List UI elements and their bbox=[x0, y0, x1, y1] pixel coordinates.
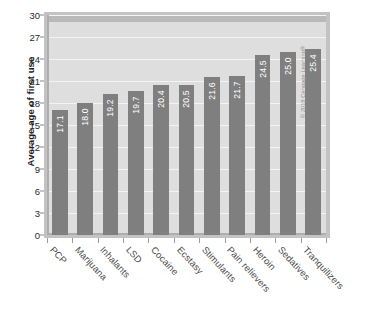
bar-value-label: 25.4 bbox=[308, 54, 318, 72]
y-axis-tick-label: 9 bbox=[18, 164, 40, 175]
x-axis-tick-mark bbox=[148, 238, 149, 243]
x-axis-tick-mark bbox=[326, 238, 327, 243]
x-axis-tick-mark bbox=[72, 238, 73, 243]
bar: 17.1 bbox=[52, 110, 68, 235]
y-axis-tick-label: 30 bbox=[18, 10, 40, 21]
bar-value-label: 20.5 bbox=[181, 90, 191, 108]
bar-series: 17.118.019.219.720.420.521.621.724.525.0… bbox=[47, 15, 326, 235]
x-axis-tick-mark bbox=[301, 238, 302, 243]
x-axis-tick-mark bbox=[174, 238, 175, 243]
bar-value-label: 25.0 bbox=[283, 57, 293, 75]
x-axis-tick-mark bbox=[199, 238, 200, 243]
x-axis-tick-mark bbox=[250, 238, 251, 243]
bar-value-label: 19.2 bbox=[105, 99, 115, 117]
y-axis-tick-label: 12 bbox=[18, 142, 40, 153]
x-axis-tick-mark bbox=[123, 238, 124, 243]
bar: 24.5 bbox=[255, 55, 271, 235]
y-axis-tick-label: 24 bbox=[18, 54, 40, 65]
bar: 21.7 bbox=[229, 76, 245, 235]
bar: 25.4 bbox=[305, 49, 321, 235]
bar-value-label: 17.1 bbox=[55, 115, 65, 133]
bar-value-label: 21.7 bbox=[232, 81, 242, 99]
plot-frame: 17.118.019.219.720.420.521.621.724.525.0… bbox=[44, 12, 330, 238]
y-axis-tick-label: 18 bbox=[18, 98, 40, 109]
bar: 20.5 bbox=[179, 85, 195, 235]
bar: 19.2 bbox=[103, 94, 119, 235]
y-axis-tick-label: 15 bbox=[18, 120, 40, 131]
x-axis-category-labels: PCPMarijuanaInhalantsLSDCocaineEcstasySt… bbox=[44, 244, 344, 310]
bar-value-label: 18.0 bbox=[80, 108, 90, 126]
y-axis-tick-labels: 036912151821242730 bbox=[18, 14, 40, 232]
bar-chart-figure: Average age of first use 036912151821242… bbox=[0, 0, 376, 314]
y-axis-tick-label: 21 bbox=[18, 76, 40, 87]
bar-value-label: 24.5 bbox=[258, 61, 268, 79]
x-axis-category-label: PCP bbox=[48, 244, 69, 266]
y-axis-tick-label: 0 bbox=[18, 230, 40, 241]
y-axis-tick-label: 6 bbox=[18, 186, 40, 197]
x-axis-tick-mark bbox=[98, 238, 99, 243]
bar: 20.4 bbox=[153, 85, 169, 235]
copyright-credit: © 2018 Cengage Learning® bbox=[300, 0, 306, 118]
y-axis-tick-label: 3 bbox=[18, 208, 40, 219]
bar-value-label: 19.7 bbox=[131, 96, 141, 114]
x-axis-tick-mark bbox=[275, 238, 276, 243]
plot-area: 17.118.019.219.720.420.521.621.724.525.0… bbox=[47, 15, 326, 235]
bar-value-label: 21.6 bbox=[207, 82, 217, 100]
bar-value-label: 20.4 bbox=[156, 91, 166, 109]
bar: 21.6 bbox=[204, 77, 220, 235]
bar: 25.0 bbox=[280, 52, 296, 235]
x-axis-category-label: Tranquilizers bbox=[301, 244, 346, 291]
y-axis-tick-label: 27 bbox=[18, 32, 40, 43]
x-axis-tick-mark bbox=[225, 238, 226, 243]
x-axis-category-label: LSD bbox=[124, 244, 145, 265]
bar: 19.7 bbox=[128, 91, 144, 235]
bar: 18.0 bbox=[77, 103, 93, 235]
x-axis-tick-mark bbox=[47, 238, 48, 243]
